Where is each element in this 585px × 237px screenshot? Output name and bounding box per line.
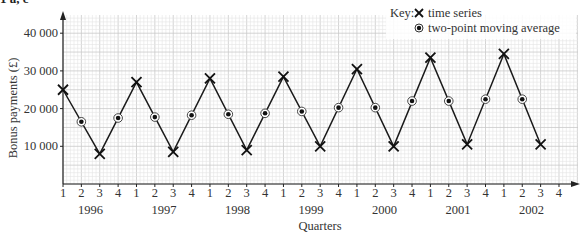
svg-text:1: 1 — [427, 186, 433, 200]
svg-text:4: 4 — [188, 186, 195, 200]
svg-text:1: 1 — [280, 186, 286, 200]
svg-text:1997: 1997 — [152, 203, 177, 217]
moving-average-marker — [114, 114, 123, 123]
svg-text:20 000: 20 000 — [24, 102, 58, 116]
legend-moving-average: two-point moving average — [428, 21, 560, 35]
moving-average-marker — [261, 109, 270, 118]
svg-text:4: 4 — [262, 186, 269, 200]
svg-text:2001: 2001 — [445, 203, 470, 217]
svg-text:2: 2 — [519, 186, 525, 200]
time-series-chart: 10 00020 00030 00040 000 123412341234123… — [0, 0, 585, 237]
legend: Key: time series two-point moving averag… — [386, 3, 576, 39]
svg-text:3: 3 — [97, 186, 103, 200]
svg-text:3: 3 — [464, 186, 470, 200]
grid — [63, 15, 578, 184]
svg-text:3: 3 — [317, 186, 323, 200]
svg-text:4: 4 — [115, 186, 122, 200]
svg-text:3: 3 — [170, 186, 176, 200]
svg-text:3: 3 — [244, 186, 250, 200]
svg-text:2: 2 — [78, 186, 84, 200]
svg-text:2: 2 — [372, 186, 378, 200]
svg-text:1: 1 — [354, 186, 360, 200]
moving-average-marker — [371, 103, 380, 112]
moving-average-marker — [187, 111, 196, 120]
svg-text:2002: 2002 — [519, 203, 544, 217]
svg-text:30 000: 30 000 — [24, 64, 58, 78]
svg-text:1: 1 — [133, 186, 139, 200]
moving-average-marker — [151, 113, 160, 122]
year-labels: 1996199719981999200020012002 — [78, 203, 544, 217]
moving-average-marker — [224, 110, 233, 119]
svg-text:4: 4 — [335, 186, 342, 200]
x-axis-ticks: 1234123412341234123412341234 — [60, 184, 563, 200]
svg-text:4: 4 — [482, 186, 489, 200]
svg-text:3: 3 — [537, 186, 543, 200]
svg-text:1: 1 — [207, 186, 213, 200]
svg-text:3: 3 — [391, 186, 397, 200]
moving-average-marker — [298, 107, 307, 116]
legend-time-series: time series — [428, 6, 482, 20]
svg-text:1999: 1999 — [298, 203, 323, 217]
svg-text:4: 4 — [556, 186, 563, 200]
svg-text:2: 2 — [299, 186, 305, 200]
svg-text:40 000: 40 000 — [24, 26, 58, 40]
x-axis-label: Quarters — [298, 219, 341, 233]
svg-text:2: 2 — [152, 186, 158, 200]
moving-average-marker — [408, 97, 417, 106]
svg-text:1998: 1998 — [225, 203, 250, 217]
y-axis-label: Bonus payments (£) — [6, 58, 20, 159]
svg-text:2: 2 — [446, 186, 452, 200]
circled-dot-icon — [415, 24, 423, 32]
moving-average-marker — [334, 103, 343, 112]
moving-average-marker — [518, 95, 527, 104]
svg-text:2000: 2000 — [372, 203, 397, 217]
moving-average-marker — [444, 97, 453, 106]
svg-text:1: 1 — [60, 186, 66, 200]
svg-text:1996: 1996 — [78, 203, 103, 217]
moving-average-marker — [77, 117, 86, 126]
moving-average-marker — [481, 95, 490, 104]
svg-text:10 000: 10 000 — [24, 139, 58, 153]
legend-title: Key: — [390, 6, 414, 20]
svg-text:1: 1 — [501, 186, 507, 200]
svg-text:4: 4 — [409, 186, 416, 200]
svg-text:2: 2 — [225, 186, 231, 200]
y-axis-ticks: 10 00020 00030 00040 000 — [24, 26, 63, 153]
